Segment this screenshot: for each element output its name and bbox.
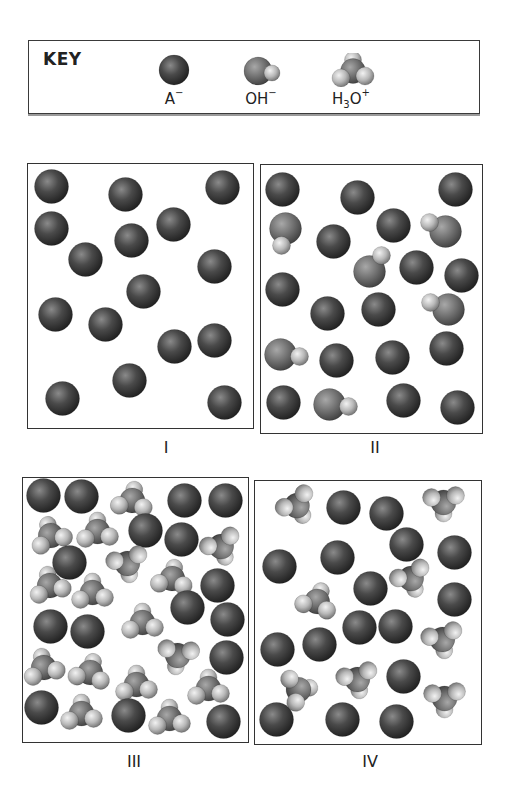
anion-a-minus-icon: [46, 382, 80, 416]
hydrogen-atom: [447, 487, 465, 505]
anion-sphere: [207, 705, 241, 739]
hydrogen-atom: [340, 398, 358, 416]
anion-a-minus-icon: [89, 308, 123, 342]
hydrogen-atom: [421, 214, 439, 232]
anion-a-minus-icon: [380, 705, 414, 739]
anion-a-minus-icon: [327, 491, 361, 525]
key-legend: KEY A− OH− H3O+: [28, 40, 480, 114]
anion-sphere: [326, 703, 360, 737]
anion-a-minus-icon: [25, 691, 59, 725]
hydrogen-atom: [212, 685, 230, 703]
hydroxide-oh-minus-icon: [314, 389, 358, 421]
anion-a-minus-icon: [263, 550, 297, 584]
hydronium-h3o-plus-icon: [23, 645, 67, 687]
hydrogen-atom: [140, 681, 158, 699]
hydrogen-atom: [273, 237, 291, 255]
anion-a-minus-icon: [362, 293, 396, 327]
anion-a-minus-icon: [377, 209, 411, 243]
anion-a-minus-icon: [341, 181, 375, 215]
anion-a-minus-icon: [211, 603, 245, 637]
anion-sphere: [379, 610, 413, 644]
panel-label-ii: II: [345, 438, 405, 457]
hydronium-h3o-plus-icon: [61, 694, 103, 730]
hydroxide-charge: −: [268, 87, 276, 98]
hydronium-h3o-plus-icon: [292, 576, 344, 624]
key-label-hydronium: H3O+: [316, 89, 386, 110]
hydrogen-atom: [264, 65, 280, 81]
hydronium-h3o-plus-icon: [334, 660, 382, 702]
anion-a-minus-icon: [376, 341, 410, 375]
anion-a-minus-icon: [320, 344, 354, 378]
hydronium-h3o-plus-icon: [419, 620, 467, 662]
hydronium-h3o-plus-icon: [332, 53, 374, 87]
anion-a-minus-icon: [168, 484, 202, 518]
anion-sphere: [430, 332, 464, 366]
anion-sphere: [387, 384, 421, 418]
anion-a-minus-icon: [69, 243, 103, 277]
hydronium-h3o-plus-icon: [271, 481, 325, 533]
hydrogen-atom: [188, 687, 206, 705]
anion-sphere: [112, 699, 146, 733]
anion-a-minus-icon: [260, 703, 294, 737]
hydrogen-atom: [373, 247, 391, 265]
anion-sphere: [127, 275, 161, 309]
anion-a-minus-icon: [65, 480, 99, 514]
anion-a-minus-icon: [311, 297, 345, 331]
anion-sphere: [157, 208, 191, 242]
hydrogen-atom: [72, 591, 90, 609]
hydrogen-atom: [146, 619, 164, 637]
anion-sphere: [35, 212, 69, 246]
anion-sphere: [209, 484, 243, 518]
hydrogen-atom: [291, 348, 309, 366]
key-item-anion: A−: [139, 53, 209, 113]
anion-a-minus-icon: [438, 583, 472, 617]
hydronium-h3o-plus-icon: [196, 524, 248, 572]
anion-a-minus-icon: [343, 611, 377, 645]
anion-a-minus-icon: [266, 173, 300, 207]
anion-a-minus-icon: [165, 523, 199, 557]
anion-a-minus-icon: [445, 259, 479, 293]
anion-sphere: [261, 633, 295, 667]
key-item-hydronium: H3O+: [316, 53, 386, 113]
anion-sphere: [266, 173, 300, 207]
anion-sphere: [71, 615, 105, 649]
anion-sphere: [198, 250, 232, 284]
anion-a-minus-icon: [206, 171, 240, 205]
hydrogen-atom: [149, 717, 167, 735]
anion-a-minus-icon: [370, 497, 404, 531]
anion-sphere: [387, 660, 421, 694]
anion-a-minus-icon: [387, 384, 421, 418]
anion-sphere: [267, 386, 301, 420]
anion-a-minus-icon: [400, 251, 434, 285]
anion-a-minus-icon: [127, 275, 161, 309]
anion-a-minus-icon: [261, 633, 295, 667]
panel-iv: [254, 480, 482, 745]
hydrogen-atom: [96, 589, 114, 607]
anion-a-minus-icon: [115, 224, 149, 258]
anion-sphere: [400, 251, 434, 285]
anion-a-minus-icon: [379, 610, 413, 644]
panel-molecules: [23, 478, 248, 742]
hydrogen-atom: [423, 489, 441, 507]
anion-sphere: [311, 297, 345, 331]
panel-molecules: [28, 164, 253, 428]
anion-sphere: [27, 479, 61, 513]
anion-symbol: A: [165, 90, 175, 108]
anion-sphere: [343, 611, 377, 645]
anion-a-minus-icon: [354, 572, 388, 606]
hydrogen-atom: [77, 530, 95, 548]
anion-a-minus-icon: [159, 55, 189, 85]
panel-label-i: I: [136, 438, 196, 457]
anion-a-minus-icon: [210, 641, 244, 675]
hydronium-h3o-plus-icon: [423, 487, 465, 523]
anion-sphere: [53, 546, 87, 580]
hydrogen-atom: [356, 67, 374, 85]
hydroxide-oh-minus-icon: [421, 214, 462, 248]
anion-a-minus-icon: [129, 514, 163, 548]
anion-sphere: [113, 364, 147, 398]
anion-sphere: [34, 610, 68, 644]
anion-a-minus-icon: [112, 699, 146, 733]
hydrogen-atom: [424, 685, 442, 703]
anion-a-minus-icon: [438, 536, 472, 570]
anion-a-minus-icon: [27, 479, 61, 513]
